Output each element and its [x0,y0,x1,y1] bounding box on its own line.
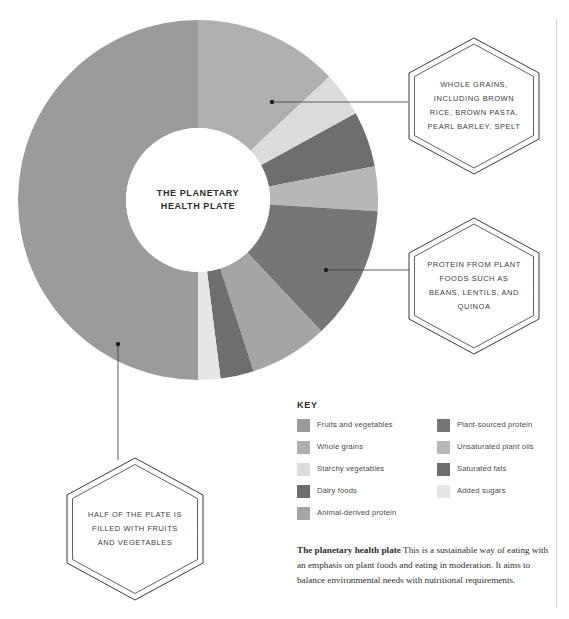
key-column-right: Plant-sourced proteinUnsaturated plant o… [437,419,559,529]
key-swatch [437,463,450,476]
key-item[interactable]: Plant-sourced protein [437,419,559,432]
key-swatch [297,507,310,520]
key-title: KEY [297,400,559,410]
key-item[interactable]: Saturated fats [437,463,559,476]
leader-line-fruits-vegetables [110,340,126,460]
key-label: Plant-sourced protein [457,419,532,431]
key-label: Fruits and vegetables [317,419,393,431]
callout-plant-protein: PROTEIN FROM PLANT FOODS SUCH AS BEANS, … [404,216,544,356]
key-label: Unsaturated plant oils [457,441,534,453]
key-label: Added sugars [457,485,506,497]
key-label: Starchy vegetables [317,463,384,475]
key-item[interactable]: Unsaturated plant oils [437,441,559,454]
key-item[interactable]: Dairy foods [297,485,423,498]
leader-line-plant-protein [322,263,410,277]
planetary-health-plate-chart: THE PLANETARY HEALTH PLATE [18,14,378,386]
key-label: Saturated fats [457,463,506,475]
key-swatch [297,419,310,432]
key-item[interactable]: Starchy vegetables [297,463,423,476]
key-label: Whole grains [317,441,363,453]
key-swatch [437,419,450,432]
key-item[interactable]: Whole grains [297,441,423,454]
hexagon-outline-whole-grains [404,36,544,176]
key-item[interactable]: Added sugars [437,485,559,498]
key-label: Animal-derived protein [317,507,396,519]
caption-lead: The planetary health plate [297,545,401,555]
caption-block: The planetary health plate This is a sus… [297,543,549,588]
key-swatch [297,463,310,476]
key-swatch [437,485,450,498]
donut-hole [126,128,270,272]
leader-line-whole-grains [268,95,408,109]
callout-fruits-vegetables: HALF OF THE PLATE IS FILLED WITH FRUITS … [62,456,208,602]
key-swatch [297,441,310,454]
key-legend: KEY Fruits and vegetablesWhole grainsSta… [297,400,559,529]
key-label: Dairy foods [317,485,357,497]
callout-whole-grains: WHOLE GRAINS, INCLUDING BROWN RICE, BROW… [404,36,544,176]
key-columns: Fruits and vegetablesWhole grainsStarchy… [297,419,559,529]
donut-chart: THE PLANETARY HEALTH PLATE [18,14,378,386]
key-swatch [297,485,310,498]
key-item[interactable]: Animal-derived protein [297,507,423,520]
key-swatch [437,441,450,454]
hexagon-outline-fruits-vegetables [62,456,208,602]
donut-chart-svg [18,14,378,386]
key-item[interactable]: Fruits and vegetables [297,419,423,432]
hexagon-outline-plant-protein [404,216,544,356]
key-column-left: Fruits and vegetablesWhole grainsStarchy… [297,419,423,529]
